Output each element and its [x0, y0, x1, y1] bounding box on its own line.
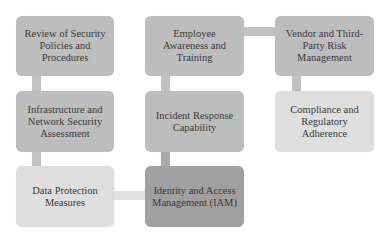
node-compliance-regulatory: Compliance and Regulatory Adherence	[275, 91, 374, 152]
connector-incident-employee	[161, 75, 170, 92]
node-employee-awareness: Employee Awareness and Training	[145, 16, 244, 76]
connector-employee-vendor	[243, 27, 276, 36]
connector-data-iam	[113, 191, 146, 200]
node-identity-access-management: Identity and Access Management (IAM)	[145, 166, 244, 227]
node-label: Infrastructure and Network Security Asse…	[22, 104, 108, 140]
connector-review-infra	[32, 75, 41, 92]
node-review-security-policies: Review of Security Policies and Procedur…	[16, 16, 114, 76]
node-vendor-risk: Vendor and Third-Party Risk Management	[275, 16, 374, 76]
connector-vendor-compliance	[292, 75, 301, 92]
connector-iam-incident	[161, 151, 170, 167]
node-label: Compliance and Regulatory Adherence	[281, 104, 368, 140]
node-label: Incident Response Capability	[151, 110, 238, 134]
node-incident-response: Incident Response Capability	[145, 91, 244, 152]
node-label: Data Protection Measures	[22, 185, 108, 209]
node-label: Employee Awareness and Training	[151, 28, 238, 64]
node-label: Identity and Access Management (IAM)	[151, 185, 238, 209]
node-label: Review of Security Policies and Procedur…	[22, 28, 108, 64]
node-label: Vendor and Third-Party Risk Management	[281, 28, 368, 64]
node-infrastructure-network-security: Infrastructure and Network Security Asse…	[16, 91, 114, 152]
node-data-protection: Data Protection Measures	[16, 166, 114, 227]
connector-infra-data	[32, 151, 41, 167]
